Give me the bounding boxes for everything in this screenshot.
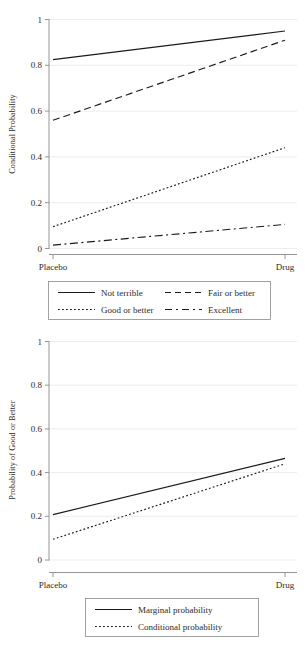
y-tick-label: 0.4 xyxy=(31,152,43,162)
y-tick-label: 0.8 xyxy=(31,60,43,70)
y-tick-label: 0.2 xyxy=(31,511,42,521)
legend-label-good-or-better: Good or better xyxy=(101,305,153,315)
x-tick-label-placebo: Placebo xyxy=(39,262,68,272)
figure-page: 1 0.8 0.6 0.4 0.2 0 Conditional Probabil… xyxy=(0,0,307,648)
legend-label-fair-or-better: Fair or better xyxy=(208,288,255,298)
series-line-excellent xyxy=(53,224,285,245)
series-line-conditional-probability xyxy=(53,464,285,540)
series-line-fair-or-better xyxy=(53,40,285,120)
x-tick-label-drug: Drug xyxy=(276,262,295,272)
bottom-gridlines xyxy=(49,342,297,561)
bottom-y-tick-labels: 1 0.8 0.6 0.4 0.2 0 xyxy=(31,337,43,565)
top-legend: Not terrible Fair or better Good or bett… xyxy=(49,282,271,320)
top-y-tick-labels: 1 0.8 0.6 0.4 0.2 0 xyxy=(31,15,43,254)
series-line-good-or-better xyxy=(53,148,285,227)
y-axis-title: Conditional Probability xyxy=(8,93,17,173)
bottom-legend: Marginal probability Conditional probabi… xyxy=(86,599,259,637)
conditional-probability-chart: 1 0.8 0.6 0.4 0.2 0 Conditional Probabil… xyxy=(0,0,307,330)
top-series-group xyxy=(53,31,285,245)
x-tick-label-placebo: Placebo xyxy=(39,580,68,590)
good-or-better-probability-chart: 1 0.8 0.6 0.4 0.2 0 Probability of Good … xyxy=(0,330,307,648)
y-tick-label: 0.8 xyxy=(31,380,43,390)
y-tick-label: 1 xyxy=(38,15,43,25)
legend-label-excellent: Excellent xyxy=(208,305,242,315)
legend-label-conditional-probability: Conditional probability xyxy=(138,622,223,632)
legend-label-not-terrible: Not terrible xyxy=(101,288,143,298)
y-tick-label: 0.2 xyxy=(31,198,42,208)
y-tick-label: 1 xyxy=(38,337,43,347)
y-tick-label: 0.4 xyxy=(31,468,43,478)
y-tick-label: 0.6 xyxy=(31,106,43,116)
top-y-axis xyxy=(45,19,49,249)
top-chart-svg: 1 0.8 0.6 0.4 0.2 0 Conditional Probabil… xyxy=(0,0,307,330)
bottom-x-axis xyxy=(49,573,297,578)
top-gridlines xyxy=(49,20,297,249)
y-axis-title: Probability of Good or Better xyxy=(8,400,17,499)
y-tick-label: 0 xyxy=(38,244,43,254)
bottom-y-axis xyxy=(45,341,49,561)
y-tick-label: 0 xyxy=(38,555,43,565)
series-line-not-terrible xyxy=(53,31,285,60)
x-tick-label-drug: Drug xyxy=(276,580,295,590)
legend-label-marginal-probability: Marginal probability xyxy=(138,605,213,615)
bottom-chart-svg: 1 0.8 0.6 0.4 0.2 0 Probability of Good … xyxy=(0,330,307,648)
y-tick-label: 0.6 xyxy=(31,424,43,434)
top-x-axis xyxy=(49,255,297,260)
series-line-marginal-probability xyxy=(53,458,285,514)
bottom-series-group xyxy=(53,458,285,539)
